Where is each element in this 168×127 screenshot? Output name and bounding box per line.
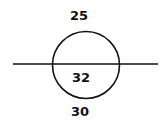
label-inside-bottom: 32 [72, 71, 90, 84]
label-below: 30 [71, 105, 89, 118]
circle-shape [53, 32, 120, 99]
label-top: 25 [70, 9, 88, 22]
